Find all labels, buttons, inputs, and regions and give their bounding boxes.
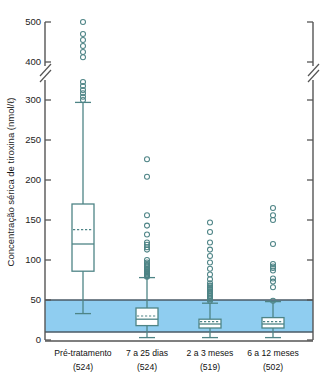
y-tick-label: 300 (25, 94, 41, 105)
boxplot-chart: 050100150200250300400500 Pré-tratamento(… (0, 0, 331, 381)
box-iqr (262, 318, 284, 328)
y-axis-title: Concentração sérica de tiroxina (nmol/ℓ) (5, 98, 16, 267)
x-axis-category-count: (524) (73, 362, 93, 372)
x-axis-category-count: (502) (263, 362, 283, 372)
boxplot-figure: 050100150200250300400500 Pré-tratamento(… (0, 0, 331, 381)
x-axis-category-label: 2 a 3 meses (187, 348, 234, 358)
y-tick-label: 500 (25, 16, 41, 27)
x-axis-category-label: 6 a 12 meses (247, 348, 299, 358)
y-tick-label: 50 (30, 294, 41, 305)
x-axis-category-label: 7 a 25 dias (126, 348, 168, 358)
box-iqr (72, 204, 94, 271)
x-axis-category-count: (524) (137, 362, 157, 372)
y-tick-label: 400 (25, 56, 41, 67)
x-axis-category-label: Pré-tratamento (54, 348, 112, 358)
y-tick-label: 100 (25, 254, 41, 265)
y-tick-label: 150 (25, 214, 41, 225)
y-tick-label: 200 (25, 174, 41, 185)
box-iqr (136, 308, 158, 326)
y-tick-label: 0 (36, 334, 41, 345)
y-tick-label: 250 (25, 134, 41, 145)
x-axis-category-count: (519) (200, 362, 220, 372)
